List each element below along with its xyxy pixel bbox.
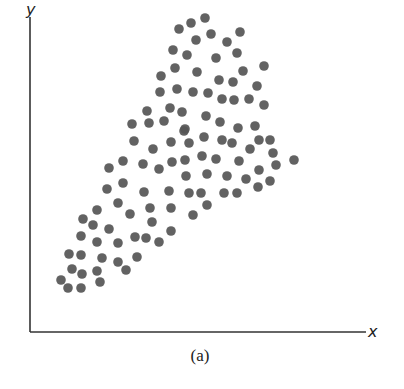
data-point bbox=[92, 237, 102, 247]
data-point bbox=[202, 200, 212, 210]
data-point bbox=[219, 188, 229, 198]
data-point bbox=[78, 214, 88, 224]
data-point bbox=[76, 250, 86, 260]
data-point bbox=[181, 171, 191, 181]
data-point bbox=[214, 75, 224, 85]
data-point bbox=[113, 257, 123, 267]
data-point bbox=[77, 269, 87, 279]
data-point bbox=[167, 157, 177, 167]
data-point bbox=[76, 231, 86, 241]
data-point bbox=[217, 94, 227, 104]
data-point bbox=[156, 71, 166, 81]
scatter-points bbox=[56, 13, 299, 293]
x-axis-label: x bbox=[367, 322, 378, 341]
data-point bbox=[63, 283, 73, 293]
data-point bbox=[154, 164, 164, 174]
data-point bbox=[265, 176, 275, 186]
data-point bbox=[222, 171, 232, 181]
data-point bbox=[238, 66, 248, 76]
data-point bbox=[144, 118, 154, 128]
data-point bbox=[211, 154, 221, 164]
data-point bbox=[132, 252, 142, 262]
data-point bbox=[113, 198, 123, 208]
data-point bbox=[232, 48, 242, 58]
data-point bbox=[92, 266, 102, 276]
data-point bbox=[166, 226, 176, 236]
y-axis-label: y bbox=[25, 0, 36, 19]
data-point bbox=[182, 50, 192, 60]
data-point bbox=[170, 63, 180, 73]
data-point bbox=[188, 210, 198, 220]
data-point bbox=[245, 144, 255, 154]
data-point bbox=[184, 138, 194, 148]
data-point bbox=[252, 81, 262, 91]
data-point bbox=[215, 117, 225, 127]
data-point bbox=[164, 186, 174, 196]
data-point bbox=[76, 283, 86, 293]
figure-caption: (a) bbox=[191, 346, 210, 365]
data-point bbox=[211, 53, 221, 63]
data-point bbox=[229, 95, 239, 105]
data-point bbox=[184, 188, 194, 198]
data-point bbox=[129, 136, 139, 146]
data-point bbox=[180, 155, 190, 165]
data-point bbox=[271, 160, 281, 170]
data-point bbox=[159, 116, 169, 126]
data-point bbox=[113, 238, 123, 248]
data-point bbox=[172, 84, 182, 94]
data-point bbox=[145, 203, 155, 213]
data-point bbox=[206, 29, 216, 39]
data-point bbox=[118, 156, 128, 166]
data-point bbox=[168, 45, 178, 55]
data-point bbox=[191, 35, 201, 45]
data-point bbox=[166, 137, 176, 147]
data-point bbox=[228, 77, 238, 87]
data-point bbox=[155, 87, 165, 97]
data-point bbox=[254, 135, 264, 145]
data-point bbox=[201, 111, 211, 121]
data-point bbox=[241, 174, 251, 184]
data-point bbox=[148, 144, 158, 154]
data-point bbox=[244, 94, 254, 104]
data-point bbox=[179, 126, 189, 136]
data-point bbox=[67, 264, 77, 274]
data-point bbox=[95, 277, 105, 287]
data-point bbox=[118, 178, 128, 188]
data-point bbox=[196, 188, 206, 198]
data-point bbox=[188, 87, 198, 97]
data-point bbox=[142, 106, 152, 116]
data-point bbox=[97, 253, 107, 263]
data-point bbox=[192, 67, 202, 77]
data-point bbox=[139, 187, 149, 197]
data-point bbox=[227, 138, 237, 148]
data-point bbox=[259, 100, 269, 110]
data-point bbox=[289, 155, 299, 165]
data-point bbox=[222, 37, 232, 47]
data-point bbox=[265, 135, 275, 145]
data-point bbox=[127, 119, 137, 129]
data-point bbox=[154, 237, 164, 247]
data-point bbox=[200, 13, 210, 23]
data-point bbox=[233, 123, 243, 133]
data-point bbox=[254, 165, 264, 175]
data-point bbox=[141, 233, 151, 243]
data-point bbox=[203, 88, 213, 98]
data-point bbox=[166, 203, 176, 213]
data-point bbox=[121, 265, 131, 275]
data-point bbox=[174, 24, 184, 34]
data-point bbox=[186, 18, 196, 28]
data-point bbox=[130, 232, 140, 242]
data-point bbox=[268, 148, 278, 158]
data-point bbox=[234, 156, 244, 166]
data-point bbox=[104, 163, 114, 173]
data-point bbox=[64, 249, 74, 259]
data-point bbox=[56, 275, 66, 285]
data-point bbox=[177, 107, 187, 117]
data-point bbox=[88, 220, 98, 230]
data-point bbox=[232, 188, 242, 198]
data-point bbox=[235, 27, 245, 37]
data-point bbox=[104, 224, 114, 234]
data-point bbox=[250, 121, 260, 131]
data-point bbox=[138, 159, 148, 169]
data-point bbox=[259, 61, 269, 71]
